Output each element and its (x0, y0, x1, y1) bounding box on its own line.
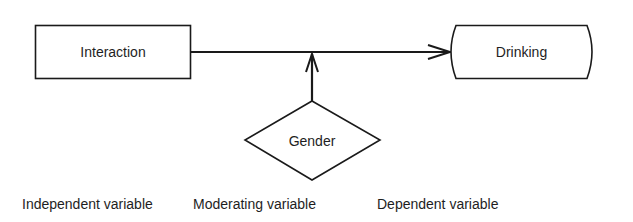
moderating-variable-label: Gender (262, 133, 362, 149)
dependent-variable-caption: Dependent variable (377, 196, 498, 212)
moderation-diagram (0, 0, 633, 222)
dependent-variable-label: Drinking (450, 44, 593, 60)
moderating-variable-caption: Moderating variable (193, 196, 316, 212)
independent-variable-label: Interaction (35, 44, 191, 60)
independent-variable-caption: Independent variable (22, 196, 153, 212)
